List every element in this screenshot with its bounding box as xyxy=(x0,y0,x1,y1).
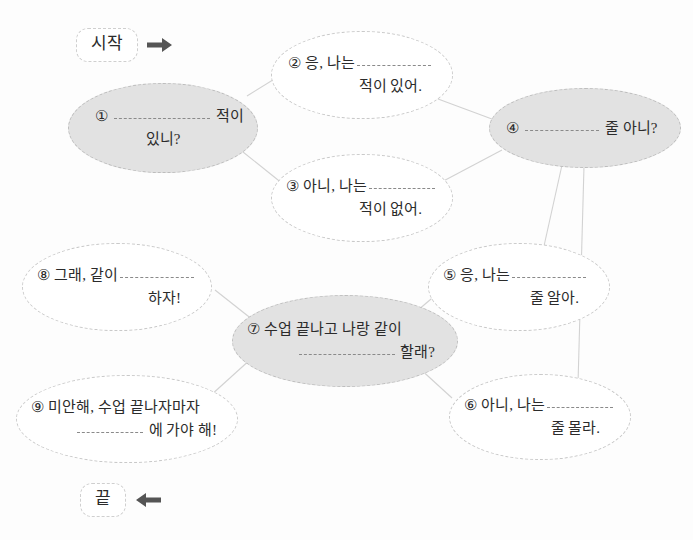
start-label: 시작 xyxy=(76,28,138,62)
bubble-1-line1-post: 적이 xyxy=(216,108,244,124)
worksheet-page: 시작 ① 적이 있니? ② 응, 나는 적이 있어. ③ 아니, 나는 적이 없… xyxy=(0,0,693,540)
bubble-3-line1-pre: 아니, 나는 xyxy=(303,178,367,194)
bubble-2-blank[interactable] xyxy=(357,65,431,66)
bubble-5-line1: ⑤ 응, 나는 xyxy=(429,264,609,287)
bubble-8-number: ⑧ xyxy=(37,267,51,283)
bubble-1-line2: 있니? xyxy=(69,128,257,151)
bubble-3-number: ③ xyxy=(286,178,300,194)
bubble-7-line1-pre: 수업 끝나고 나랑 같이 xyxy=(264,321,401,337)
end-label: 끝 xyxy=(80,483,126,517)
bubble-9-line2-text: 에 가야 해! xyxy=(149,422,218,438)
end-terminal: 끝 xyxy=(80,483,161,517)
bubble-6-line1: ⑥ 아니, 나는 xyxy=(450,394,630,417)
bubble-7-blank[interactable] xyxy=(299,354,395,355)
bubble-6-line2: 줄 몰라. xyxy=(450,417,630,440)
bubble-1: ① 적이 있니? xyxy=(68,83,258,173)
bubble-4-line1: ④ 줄 아니? xyxy=(490,117,680,140)
bubble-2: ② 응, 나는 적이 있어. xyxy=(271,31,453,119)
bubble-5-blank[interactable] xyxy=(512,277,586,278)
bubble-1-line1: ① 적이 xyxy=(69,105,257,128)
arrow-left-icon xyxy=(135,492,161,508)
bubble-5-number: ⑤ xyxy=(443,267,457,283)
bubble-9-line1-pre: 미안해, 수업 끝나자마자 xyxy=(48,399,199,415)
bubble-3-blank[interactable] xyxy=(369,188,435,189)
bubble-3-line1: ③ 아니, 나는 xyxy=(272,175,452,198)
bubble-9-line2: 에 가야 해! xyxy=(17,419,237,442)
bubble-5-line2: 줄 알아. xyxy=(429,287,609,310)
bubble-7-number: ⑦ xyxy=(247,321,261,337)
connector-7-to-8 xyxy=(215,290,253,320)
bubble-8-blank[interactable] xyxy=(120,277,194,278)
bubble-7-line1: ⑦ 수업 끝나고 나랑 같이 xyxy=(233,318,457,341)
bubble-5-line1-pre: 응, 나는 xyxy=(460,267,510,283)
bubble-7: ⑦ 수업 끝나고 나랑 같이 할래? xyxy=(232,295,458,387)
start-terminal: 시작 xyxy=(76,28,173,62)
arrow-right-icon xyxy=(147,37,173,53)
bubble-2-line1-pre: 응, 나는 xyxy=(305,55,355,71)
bubble-8-line1: ⑧ 그래, 같이 xyxy=(23,264,211,287)
bubble-6: ⑥ 아니, 나는 줄 몰라. xyxy=(449,374,631,460)
bubble-4-blank[interactable] xyxy=(525,130,599,131)
bubble-7-line2: 할래? xyxy=(233,341,457,364)
bubble-3: ③ 아니, 나는 적이 없어. xyxy=(271,154,453,242)
bubble-8-line2: 하자! xyxy=(23,287,211,310)
bubble-7-line2-text: 할래? xyxy=(400,344,435,360)
bubble-1-number: ① xyxy=(95,108,109,124)
bubble-9-line1: ⑨ 미안해, 수업 끝나자마자 xyxy=(17,396,237,419)
bubble-4-number: ④ xyxy=(506,120,520,136)
bubble-2-line1: ② 응, 나는 xyxy=(272,52,452,75)
bubble-4-line1-post: 줄 아니? xyxy=(605,120,657,136)
bubble-8: ⑧ 그래, 같이 하자! xyxy=(22,243,212,331)
bubble-9: ⑨ 미안해, 수업 끝나자마자 에 가야 해! xyxy=(16,375,238,463)
bubble-6-blank[interactable] xyxy=(547,407,613,408)
bubble-6-line1-pre: 아니, 나는 xyxy=(481,397,545,413)
connector-7-to-9 xyxy=(210,358,252,396)
bubble-3-line2: 적이 없어. xyxy=(272,198,452,221)
bubble-8-line1-pre: 그래, 같이 xyxy=(54,267,118,283)
bubble-4: ④ 줄 아니? xyxy=(489,88,681,168)
bubble-9-blank[interactable] xyxy=(77,432,143,433)
connector-4-to-5 xyxy=(542,165,562,255)
bubble-2-line2: 적이 있어. xyxy=(272,75,452,98)
bubble-9-number: ⑨ xyxy=(31,399,45,415)
bubble-1-blank[interactable] xyxy=(114,118,210,119)
bubble-6-number: ⑥ xyxy=(464,397,478,413)
bubble-2-number: ② xyxy=(288,55,302,71)
